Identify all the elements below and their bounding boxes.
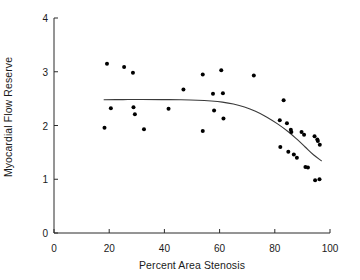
data-point xyxy=(278,145,282,149)
data-point xyxy=(105,62,109,66)
data-point xyxy=(302,133,306,137)
data-point xyxy=(181,87,185,91)
x-tick-label: 40 xyxy=(159,243,170,254)
data-point xyxy=(316,139,320,143)
data-point xyxy=(306,165,310,169)
data-point xyxy=(219,68,223,72)
y-tick-label: 3 xyxy=(42,66,48,77)
data-point xyxy=(318,177,322,181)
data-point xyxy=(221,117,225,121)
data-point xyxy=(103,126,107,130)
data-point xyxy=(211,92,215,96)
plot-canvas xyxy=(0,0,360,280)
y-tick-label: 0 xyxy=(42,228,48,239)
data-point xyxy=(282,98,286,102)
data-point xyxy=(295,156,299,160)
data-point-group xyxy=(103,62,322,183)
data-point xyxy=(122,65,126,69)
axes xyxy=(54,18,330,233)
data-point xyxy=(201,129,205,133)
x-tick-label: 100 xyxy=(322,243,339,254)
data-point xyxy=(212,108,216,112)
data-point xyxy=(285,121,289,125)
x-tick-label: 0 xyxy=(51,243,57,254)
x-tick-label: 60 xyxy=(214,243,225,254)
y-tick-label: 2 xyxy=(42,120,48,131)
x-tick-label: 80 xyxy=(269,243,280,254)
data-point xyxy=(286,150,290,154)
x-axis-tickmarks xyxy=(54,229,330,233)
x-tick-label: 20 xyxy=(104,243,115,254)
data-point xyxy=(131,71,135,75)
y-axis-label-text: Myocardial Flow Reserve xyxy=(2,56,14,176)
data-point xyxy=(133,112,137,116)
y-axis-tick-labels: 01234 xyxy=(24,0,48,240)
y-axis-tickmarks xyxy=(54,18,58,233)
y-tick-label: 1 xyxy=(42,174,48,185)
data-point xyxy=(201,72,205,76)
y-tick-label: 4 xyxy=(42,13,48,24)
data-point xyxy=(292,153,296,157)
data-point xyxy=(109,106,113,110)
data-point xyxy=(142,127,146,131)
data-point xyxy=(131,105,135,109)
x-axis-label: Percent Area Stenosis xyxy=(54,259,330,271)
data-point xyxy=(167,107,171,111)
data-point xyxy=(313,178,317,182)
scatter-plot-figure: Myocardial Flow Reserve Percent Area Ste… xyxy=(0,0,360,280)
data-point xyxy=(252,74,256,78)
data-point xyxy=(289,130,293,134)
data-point xyxy=(278,118,282,122)
data-point xyxy=(318,143,322,147)
data-point xyxy=(313,134,317,138)
data-point xyxy=(221,91,225,95)
